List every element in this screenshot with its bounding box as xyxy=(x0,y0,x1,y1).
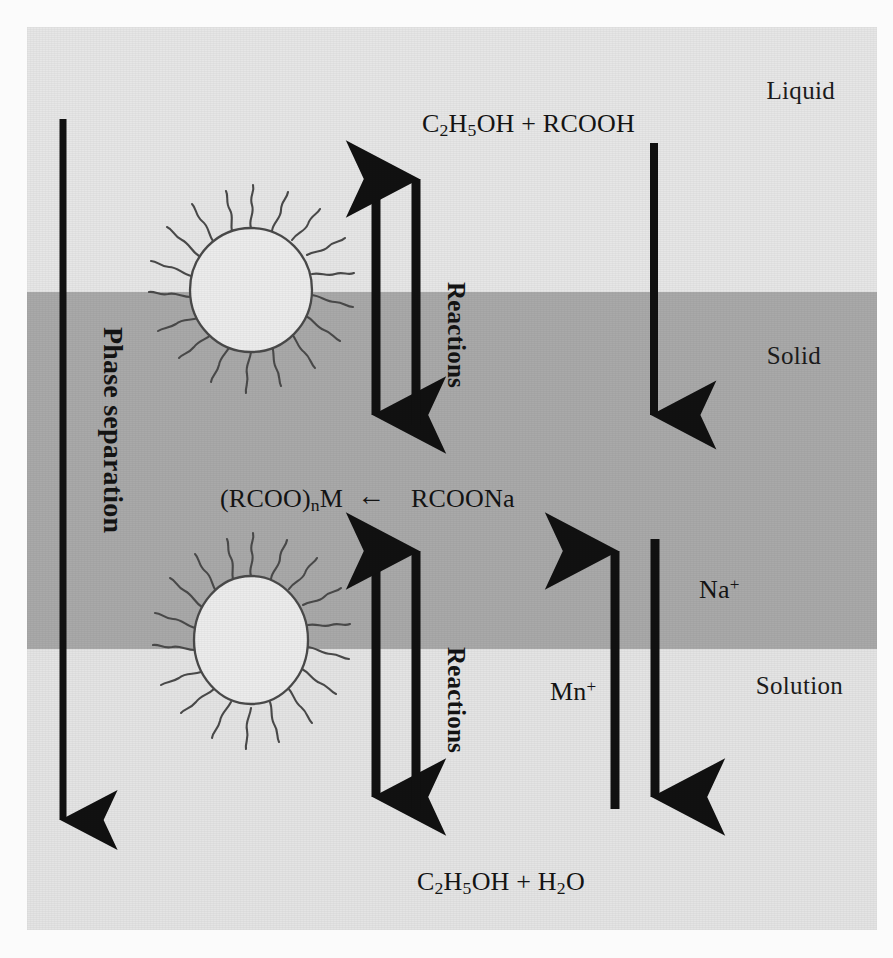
formula-bottom-c: C xyxy=(417,867,435,896)
formula-top-oh: OH xyxy=(477,109,515,138)
formula-bottom-oh: OH xyxy=(472,867,510,896)
phase-label-liquid: Liquid xyxy=(767,77,835,105)
phase-label-solid: Solid xyxy=(767,342,821,370)
sodium-ion-charge: + xyxy=(730,575,740,594)
formula-bottom-plus: + xyxy=(510,867,538,896)
sodium-ion-symbol: Na xyxy=(699,575,730,604)
phase-label-solution: Solution xyxy=(756,672,843,700)
formula-top-h: H xyxy=(449,109,468,138)
phase-separation-label: Phase separation xyxy=(97,327,129,533)
metal-ion-symbol: Mn xyxy=(550,677,587,706)
phase-diagram-panel: Liquid Solid Solution C2H5OH + RCOOH C2H… xyxy=(27,27,877,930)
formula-bottom-water-h: H xyxy=(538,867,557,896)
formula-sodium-carboxylate: RCOONa xyxy=(411,484,515,514)
formula-top-acid: RCOOH xyxy=(543,109,635,138)
formula-rcoo-group: (RCOO) xyxy=(220,484,311,513)
figure-root: Liquid Solid Solution C2H5OH + RCOOH C2H… xyxy=(0,0,893,958)
formula-top-c-sub: 2 xyxy=(440,120,449,140)
sodium-ion-label: Na+ xyxy=(699,575,740,605)
metal-ion-charge: + xyxy=(587,677,597,696)
formula-bottom-h-sub: 5 xyxy=(463,878,472,898)
left-arrow-glyph: ← xyxy=(357,482,385,510)
formula-rcoo-metal: M xyxy=(320,484,343,513)
formula-top-h-sub: 5 xyxy=(468,120,477,140)
formula-bottom-h: H xyxy=(444,867,463,896)
formula-metal-carboxylate: (RCOO)nM xyxy=(220,484,343,516)
reactions-label-lower: Reactions xyxy=(442,647,470,753)
reactions-label-upper: Reactions xyxy=(442,282,470,388)
formula-rcoo-n-sub: n xyxy=(311,495,320,515)
formula-bottom-products: C2H5OH + H2O xyxy=(417,867,585,899)
formula-top-plus: + xyxy=(515,109,543,138)
formula-bottom-water-o: O xyxy=(566,867,585,896)
formula-top-c: C xyxy=(422,109,440,138)
metal-ion-label: Mn+ xyxy=(550,677,596,707)
phase-band-liquid xyxy=(27,27,877,292)
formula-top-products: C2H5OH + RCOOH xyxy=(422,109,635,141)
formula-bottom-water-sub: 2 xyxy=(557,878,566,898)
formula-bottom-c-sub: 2 xyxy=(435,878,444,898)
